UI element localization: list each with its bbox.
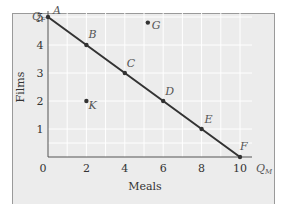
y-tick-label: 2 [37, 95, 44, 108]
y-tick-label: 4 [37, 39, 44, 52]
data-point-c [123, 71, 127, 75]
y-axis-label: Films [14, 71, 27, 102]
point-label-g: G [152, 19, 161, 32]
data-point-f [238, 155, 242, 159]
point-label-e: E [204, 113, 213, 126]
x-tick-label: 4 [121, 162, 128, 175]
x-axis-symbol: QM [256, 162, 273, 176]
y-axis-symbol: QF [32, 10, 47, 24]
x-axis-label: Meals [128, 180, 162, 193]
x-tick-label: 0 [40, 162, 47, 175]
data-point-b [84, 43, 88, 47]
data-point-e [199, 127, 203, 131]
data-point-d [161, 99, 165, 103]
y-tick-label: 3 [37, 67, 44, 80]
x-tick-label: 2 [83, 162, 90, 175]
point-label-k: K [87, 99, 97, 112]
point-label-d: D [164, 85, 174, 98]
point-label-f: F [239, 140, 248, 153]
y-tick-label: 1 [37, 123, 44, 136]
point-label-c: C [127, 57, 136, 70]
point-label-a: A [52, 4, 61, 17]
point-label-b: B [87, 28, 96, 41]
data-point-a [46, 15, 50, 19]
x-tick-label: 10 [233, 162, 247, 175]
budget-line-chart: 024681012345MealsFilmsQFQMABCDEFGK [0, 0, 290, 204]
x-tick-label: 8 [198, 162, 205, 175]
x-tick-label: 6 [160, 162, 167, 175]
data-point-g [146, 20, 150, 24]
